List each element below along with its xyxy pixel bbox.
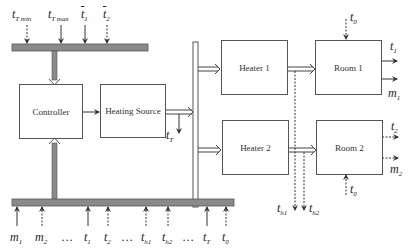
label-t-tmax: tT max (48, 8, 69, 23)
room1-block: Room 1 (315, 40, 382, 95)
label-th2-bottom: th2 (162, 231, 172, 246)
bottom-input-bar (12, 199, 234, 206)
label-room1-m1: m1 (388, 87, 400, 102)
connector-bottom (52, 143, 57, 199)
heating-source-block: Heating Source (100, 84, 166, 138)
label-m2-bottom: m2 (35, 231, 47, 246)
connector-top (52, 51, 57, 80)
arrow-bus-to-heater2 (216, 145, 221, 155)
heater2-block: Heater 2 (222, 120, 289, 175)
label-t1-bar: t1 (81, 8, 88, 23)
heater1-block: Heater 1 (221, 40, 288, 95)
label-th2-out: th2 (309, 202, 319, 217)
arrow-source-to-bus (188, 107, 193, 117)
label-th1-out: th1 (277, 202, 287, 217)
top-input-bar (12, 44, 148, 51)
arrow-bus-to-heater1 (215, 64, 220, 74)
label-t2-bottom: t2 (104, 231, 111, 246)
distribution-bus (193, 42, 198, 207)
label-t2-bar: t2 (103, 8, 110, 23)
label-tT-bottom: tT (203, 231, 210, 246)
controller-block: Controller (19, 84, 83, 139)
label-room2-t2: t2 (391, 120, 398, 135)
label-m1-bottom: m1 (10, 231, 22, 246)
label-ellipsis-3: … (183, 231, 194, 243)
label-room2-m2: m2 (390, 163, 402, 178)
room2-block: Room 2 (316, 120, 383, 175)
label-t0-room2: t0 (350, 183, 357, 198)
label-th1-bottom: th1 (141, 231, 151, 246)
label-ellipsis-2: … (122, 231, 133, 243)
label-room1-t1: t1 (390, 40, 397, 55)
label-tT-out: tT (166, 129, 173, 144)
label-ellipsis-1: … (62, 231, 73, 243)
label-t-tmin: tT min (12, 8, 31, 23)
label-t1-bottom: t1 (84, 231, 91, 246)
label-t0-room1: t0 (350, 11, 357, 26)
label-t0-bottom: t0 (222, 231, 229, 246)
